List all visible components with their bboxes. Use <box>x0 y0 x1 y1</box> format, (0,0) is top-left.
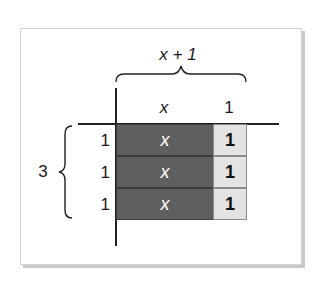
unit-tile: 1 <box>213 124 247 156</box>
row-label: 1 <box>94 163 110 183</box>
x-tile: x <box>116 188 214 220</box>
left-brace-icon <box>58 124 76 220</box>
row-label: 1 <box>94 195 110 215</box>
x-tile: x <box>116 156 214 188</box>
side-label: 3 <box>34 162 52 182</box>
unit-tile-label: 1 <box>214 162 246 183</box>
unit-tile: 1 <box>213 188 247 220</box>
x-tile-label: x <box>117 194 213 215</box>
x-tile-label: x <box>117 130 213 151</box>
column-label-x: x <box>150 98 178 118</box>
unit-tile-label: 1 <box>214 130 246 151</box>
unit-tile: 1 <box>213 156 247 188</box>
unit-tile-label: 1 <box>214 194 246 215</box>
x-tile-label: x <box>117 162 213 183</box>
column-label-1: 1 <box>217 98 241 118</box>
row-label: 1 <box>94 131 110 151</box>
top-expression-label: x + 1 <box>140 45 216 65</box>
top-brace-icon <box>114 64 248 84</box>
x-tile: x <box>116 124 214 156</box>
